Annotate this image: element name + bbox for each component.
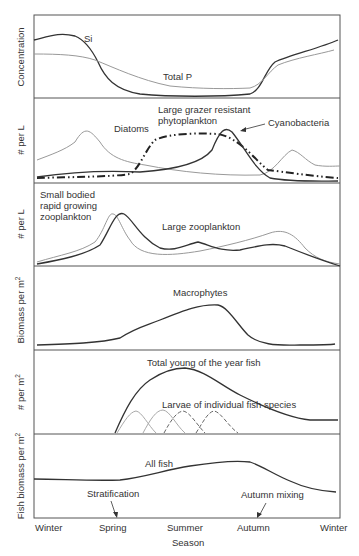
larvae-label: Larvae of individual fish species [162,399,296,410]
autumn-mixing-label: Autumn mixing [241,489,304,500]
small-bodied-label-line2: rapid growing [40,200,97,211]
larva-1-line [117,411,156,433]
panel-concentration: Si Total P [34,33,338,96]
x-axis-title: Season [172,537,204,548]
total-p-line [34,50,334,89]
x-tick-spring: Spring [99,522,126,533]
macrophytes-line [37,305,335,345]
x-tick-winter-start: Winter [35,522,62,533]
small-bodied-label-line1: Small bodied [40,189,95,200]
diatoms-label: Diatoms [114,123,149,134]
panel-zooplankton: Small bodied rapid growing zooplankton L… [37,189,340,266]
x-axis: Winter Spring Summer Autumn Winter Seaso… [35,522,347,548]
ylabel-fish-biomass-text: Fish biomass per m [15,436,26,519]
stratification-label: Stratification [87,488,139,499]
macrophytes-label: Macrophytes [173,287,228,298]
panel-young-fish: Total young of the year fish Larvae of i… [115,357,338,433]
ylabel-biomass: Biomass per m2 [14,276,26,343]
ylabel-per-l-2: # per L [15,209,26,239]
ylabel-per-l-1: # per L [15,125,26,155]
all-fish-line [34,461,336,492]
x-tick-summer: Summer [167,522,203,533]
small-bodied-label-line3: zooplankton [40,211,91,222]
x-tick-autumn: Autumn [237,522,270,533]
ylabel-biomass-text: Biomass per m [15,280,26,343]
panel-macrophytes: Macrophytes [37,287,335,345]
y-axis-labels: Concentration # per L # per L Biomass pe… [14,27,26,519]
diatoms-line [37,131,340,175]
ylabel-per-m2: # per m2 [14,374,26,410]
ylabel-fish-biomass-sup: 2 [14,432,21,436]
ylabel-biomass-sup: 2 [14,276,21,280]
cyanobacteria-label: Cyanobacteria [268,117,330,128]
plot-frame [34,15,340,518]
ylabel-concentration: Concentration [15,27,26,86]
x-tick-winter-end: Winter [320,522,347,533]
seasonal-succession-figure: Si Total P Diatoms Large grazer resistan… [0,0,359,556]
large-grazer-label-line2: phytoplankton [158,115,217,126]
autumn-mixing-arrowhead-icon [257,512,262,518]
panel-fish-biomass: All fish Stratification Autumn mixing [34,458,336,518]
panel-phytoplankton: Diatoms Large grazer resistant phytoplan… [37,104,340,181]
ylabel-per-m2-text: # per m [15,378,26,410]
larva-3-line [164,411,205,433]
ylabel-fish-biomass: Fish biomass per m2 [14,432,26,519]
all-fish-label: All fish [145,458,173,469]
large-grazer-label-line1: Large grazer resistant [158,104,251,115]
large-zooplankton-label: Large zooplankton [162,221,240,232]
total-p-label: Total P [163,71,192,82]
total-young-label: Total young of the year fish [147,357,261,368]
si-label: Si [84,33,92,44]
larva-2-line [143,410,185,433]
cyanobacteria-arrowhead-icon [240,127,246,132]
stratification-arrowhead-icon [113,512,118,518]
ylabel-per-m2-sup: 2 [14,374,21,378]
